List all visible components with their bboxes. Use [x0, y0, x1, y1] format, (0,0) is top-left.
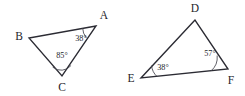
angle-arc-e [152, 66, 157, 76]
triangle-def: D E F 38° 57° [127, 2, 234, 86]
vertex-label-a: A [100, 9, 109, 21]
angle-label-c: 85° [56, 51, 67, 60]
triangles-diagram: A B C 38° 85° D E F 38° 57° [0, 0, 245, 96]
vertex-label-f: F [228, 74, 234, 86]
geometry-figure-canvas: A B C 38° 85° D E F 38° 57° [0, 0, 245, 96]
angle-arc-f [211, 56, 217, 71]
vertex-label-c: C [58, 81, 66, 93]
vertex-label-b: B [15, 30, 23, 42]
vertex-label-e: E [127, 72, 134, 84]
vertex-label-d: D [191, 2, 199, 14]
angle-label-e: 38° [157, 63, 168, 72]
triangle-abc: A B C 38° 85° [15, 9, 109, 93]
angle-label-f: 57° [204, 49, 215, 58]
angle-label-a: 38° [75, 34, 86, 43]
